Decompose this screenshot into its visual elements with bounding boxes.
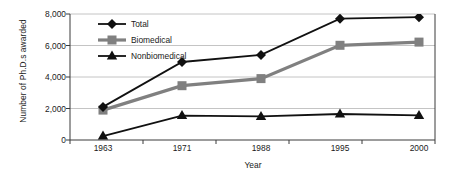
data-point-biomedical-1988 [257,74,266,83]
y-axis-ticks [66,14,70,140]
x-axis-ticks [70,140,435,144]
data-point-total-1971 [177,57,187,67]
legend-marker-nonbiomedical [98,51,126,60]
data-point-nonbiomedical-1971 [177,110,187,119]
data-point-nonbiomedical-2000 [414,110,424,119]
series-nonbiomedical [98,109,424,140]
chart-figure: Number of Ph.D.s awarded Year 0 2,000 4,… [0,0,454,179]
legend-marker-total [98,19,126,29]
data-point-total-1995 [335,14,345,24]
plot-area [0,0,454,179]
legend [98,19,126,60]
data-point-total-1988 [256,50,266,60]
series-biomedical [99,38,424,115]
data-point-nonbiomedical-1995 [335,109,345,118]
data-point-biomedical-1995 [336,41,345,50]
data-point-biomedical-2000 [415,38,424,47]
legend-marker-biomedical [98,36,126,45]
data-point-biomedical-1971 [178,81,187,90]
